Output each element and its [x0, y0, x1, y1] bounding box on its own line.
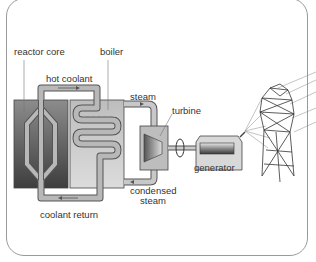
turbine [140, 126, 200, 170]
reactor-core-label: reactor core [14, 47, 65, 57]
reactor-core [14, 96, 68, 188]
transmission-tower [260, 84, 294, 182]
power-plant-diagram [0, 0, 316, 262]
generator-label: generator [194, 163, 235, 173]
steam-label: steam [130, 92, 156, 102]
turbine-label: turbine [172, 106, 201, 116]
coolant-return-label: coolant return [40, 210, 98, 220]
condensed-steam-label-line2: steam [140, 196, 166, 206]
hot-coolant-label: hot coolant [46, 74, 92, 84]
steam-pipe [124, 102, 154, 126]
boiler-label: boiler [100, 47, 123, 57]
condensed-steam-pipe [124, 170, 154, 184]
power-lines [245, 72, 316, 148]
